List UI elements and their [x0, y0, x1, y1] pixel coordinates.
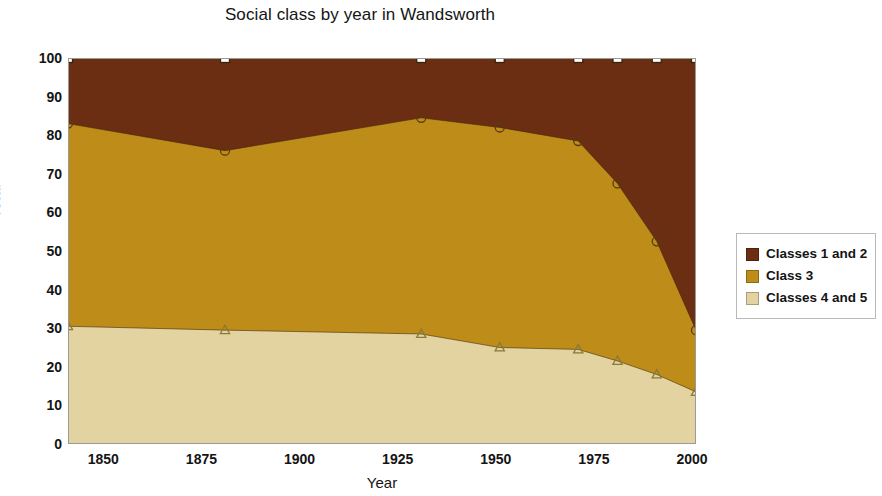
- x-axis-tick-label: 1950: [461, 452, 531, 466]
- legend-item-label: Classes 1 and 2: [766, 247, 867, 261]
- legend-color-swatch: [746, 292, 759, 305]
- y-axis-tick-label: 50: [28, 244, 62, 258]
- x-axis-tick-label: 1875: [166, 452, 236, 466]
- legend-item: Classes 1 and 2: [746, 243, 865, 265]
- y-axis-tick-label: 30: [28, 321, 62, 335]
- y-axis-tick-labels: 0102030405060708090100: [18, 58, 62, 444]
- legend-item: Classes 4 and 5: [746, 287, 865, 309]
- y-axis-tick-label: 0: [28, 437, 62, 451]
- y-axis-tick-label: 60: [28, 205, 62, 219]
- legend-color-swatch: [746, 248, 759, 261]
- stacked-area-plot: [68, 58, 696, 444]
- y-axis-tick-label: 20: [28, 360, 62, 374]
- legend-item: Class 3: [746, 265, 865, 287]
- y-axis-tick-label: 70: [28, 167, 62, 181]
- y-axis-tick-label: 10: [28, 398, 62, 412]
- chart-legend: Classes 1 and 2Class 3Classes 4 and 5: [736, 233, 876, 319]
- x-axis-tick-label: 1900: [265, 452, 335, 466]
- legend-item-label: Classes 4 and 5: [766, 291, 867, 305]
- x-axis-tick-label: 1925: [363, 452, 433, 466]
- x-axis-tick-label: 2000: [657, 452, 727, 466]
- chart-title: Social class by year in Wandsworth: [0, 5, 720, 25]
- x-axis-tick-label: 1975: [559, 452, 629, 466]
- y-axis-tick-label: 40: [28, 283, 62, 297]
- legend-color-swatch: [746, 270, 759, 283]
- y-axis-tick-label: 100: [28, 51, 62, 65]
- chart-container: Social class by year in Wandsworth Total…: [0, 0, 882, 496]
- legend-item-label: Class 3: [766, 269, 813, 283]
- x-axis-tick-labels: 1850187519001925195019752000: [68, 452, 696, 472]
- x-axis-tick-label: 1850: [68, 452, 138, 466]
- y-axis-tick-label: 80: [28, 128, 62, 142]
- x-axis-title: Year: [68, 474, 696, 491]
- plot-area: [68, 58, 696, 444]
- y-axis-tick-label: 90: [28, 90, 62, 104]
- y-axis-title: Total: [0, 184, 3, 218]
